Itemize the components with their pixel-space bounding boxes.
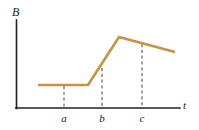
tick-label-b: b [95,113,109,124]
figure-container: B t a b c [0,0,199,130]
x-axis-label: t [183,100,186,111]
tick-label-c: c [135,113,149,124]
tick-label-a: a [57,113,71,124]
graph-canvas [0,0,199,130]
curve-b-of-t [38,37,175,85]
y-axis-label: B [12,6,19,18]
